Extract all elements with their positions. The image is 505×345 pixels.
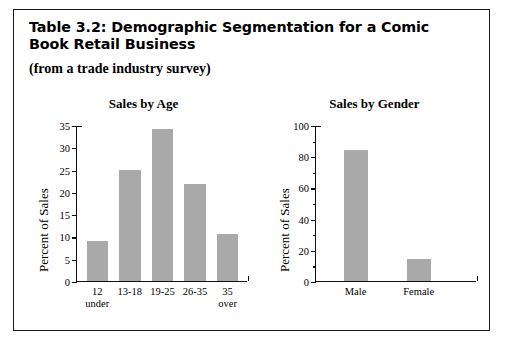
y-axis-tick-label: 25 [60, 165, 71, 176]
y-axis-tick [311, 282, 316, 283]
y-axis-tick-label: 80 [299, 152, 310, 163]
y-axis-top-cap [316, 126, 321, 127]
y-axis-tick [311, 126, 316, 127]
x-axis-tick-label: Male [345, 286, 367, 298]
table-caption: Table 3.2: Demographic Segmentation for … [29, 19, 459, 53]
bar [344, 150, 368, 281]
y-axis-label-sales-by-gender: Percent of Sales [277, 188, 293, 272]
bar [119, 170, 140, 281]
y-axis-tick [313, 204, 316, 205]
y-axis-tick [72, 260, 77, 261]
y-axis-tick-label: 20 [60, 187, 71, 198]
y-axis-tick [311, 157, 316, 158]
y-axis-tick [72, 237, 77, 238]
y-axis-tick [72, 171, 77, 172]
y-axis-tick-label: 30 [60, 143, 71, 154]
y-axis-tick [313, 142, 316, 143]
y-axis-tick [72, 282, 77, 283]
plot-area-sales-by-age: 0510152025303512 under13-1819-2526-3535 … [76, 126, 247, 282]
y-axis-tick-label: 100 [293, 121, 309, 132]
bar [152, 129, 173, 281]
x-axis-tick-label: 19-25 [150, 286, 175, 298]
y-axis-tick [72, 193, 77, 194]
y-axis-tick [311, 251, 316, 252]
x-axis-tick-label: 13-18 [118, 286, 143, 298]
y-axis-tick [72, 215, 77, 216]
table-subtitle: (from a trade industry survey) [29, 61, 211, 77]
figure-frame: Table 3.2: Demographic Segmentation for … [13, 9, 490, 331]
y-axis-tick [313, 235, 316, 236]
plot-area-sales-by-gender: 020406080100MaleFemale [315, 126, 476, 282]
y-axis-tick-label: 5 [65, 254, 70, 265]
x-axis-tick-label: 12 under [85, 286, 109, 310]
chart-title-sales-by-gender: Sales by Gender [267, 96, 482, 112]
x-axis-tick-label: Female [403, 286, 434, 298]
y-axis-tick [311, 188, 316, 189]
chart-sales-by-gender: Sales by Gender Percent of Sales 0204060… [267, 96, 482, 311]
y-axis-tick-label: 0 [65, 277, 70, 288]
x-axis-end-cap [477, 276, 478, 281]
y-axis-tick-label: 10 [60, 232, 71, 243]
y-axis-tick-label: 35 [60, 121, 71, 132]
bar [407, 259, 431, 281]
y-axis-tick-label: 15 [60, 210, 71, 221]
bar [184, 184, 205, 281]
bar [217, 234, 238, 281]
x-axis-tick-label: 26-35 [183, 286, 208, 298]
y-axis-top-cap [77, 126, 82, 127]
y-axis-tick [313, 266, 316, 267]
x-axis-end-cap [248, 276, 249, 281]
chart-sales-by-age: Sales by Age Percent of Sales 0510152025… [26, 96, 261, 311]
y-axis-tick [72, 126, 77, 127]
y-axis-tick-label: 40 [299, 214, 310, 225]
y-axis-tick [313, 173, 316, 174]
y-axis-tick [72, 148, 77, 149]
bar [87, 241, 108, 281]
y-axis-label-sales-by-age: Percent of Sales [36, 188, 52, 272]
x-axis-tick-label: 35 over [218, 286, 237, 310]
chart-title-sales-by-age: Sales by Age [26, 96, 261, 112]
y-axis-tick-label: 60 [299, 183, 310, 194]
y-axis-tick [311, 220, 316, 221]
y-axis-tick-label: 0 [304, 277, 309, 288]
y-axis-tick-label: 20 [299, 245, 310, 256]
